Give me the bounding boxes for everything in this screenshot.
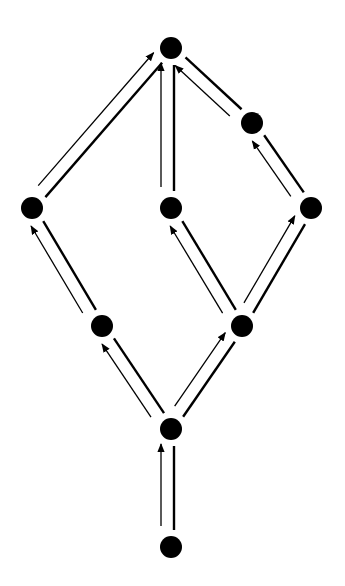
edge-line xyxy=(45,63,162,197)
node-lower-left xyxy=(91,315,113,337)
arrow-icon xyxy=(244,216,295,303)
arrow-icon xyxy=(170,226,222,313)
node-center xyxy=(160,197,182,219)
node-top xyxy=(160,37,182,59)
hasse-diagram xyxy=(0,0,345,586)
arrow-icon xyxy=(38,53,153,186)
node-bottom-mid xyxy=(160,418,182,440)
nodes-layer xyxy=(21,37,322,558)
edge-line xyxy=(183,342,235,417)
arrow-icon xyxy=(175,333,226,406)
node-lower-right xyxy=(231,315,253,337)
edge-line xyxy=(43,221,96,310)
edge-line xyxy=(114,338,164,413)
node-right xyxy=(300,197,322,219)
arrow-icon xyxy=(31,226,83,313)
node-upper-right xyxy=(241,112,263,134)
node-bottom xyxy=(160,536,182,558)
edge-line xyxy=(182,221,235,310)
edge-line xyxy=(264,135,304,192)
arrow-icon xyxy=(252,141,290,196)
edge-line xyxy=(253,224,305,313)
arrow-icon xyxy=(102,344,151,417)
node-left xyxy=(21,197,43,219)
edges-layer xyxy=(31,53,305,530)
